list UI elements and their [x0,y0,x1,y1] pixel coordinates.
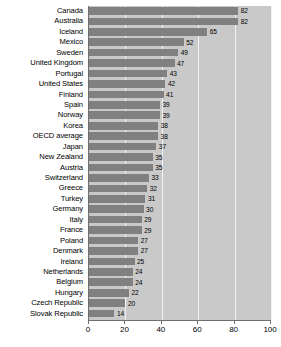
bar-value-label: 47 [177,59,184,69]
category-label: Spain [0,100,86,110]
category-label: Iceland [0,27,86,37]
bar-row: 52 [89,37,271,47]
bar[interactable] [89,38,184,46]
bar-value-label: 49 [181,48,188,58]
category-label: Ireland [0,257,86,267]
bar-row: 38 [89,121,271,131]
category-label: Turkey [0,194,86,204]
bar-row: 29 [89,225,271,235]
bar[interactable] [89,18,238,26]
category-label: Czech Republic [0,298,86,308]
bar-value-label: 52 [186,38,193,48]
bar-row: 82 [89,16,271,26]
bar[interactable] [89,289,129,297]
bar-row: 25 [89,257,271,267]
bar[interactable] [89,278,133,286]
category-label: Switzerland [0,173,86,183]
category-label: Japan [0,142,86,152]
bar[interactable] [89,299,125,307]
bar-value-label: 65 [210,27,217,37]
bar-value-label: 38 [161,121,168,131]
category-label: Mexico [0,37,86,47]
bar[interactable] [89,153,153,161]
bar[interactable] [89,143,156,151]
category-label: Slovak Republic [0,309,86,319]
bar-row: 30 [89,204,271,214]
bar-row: 38 [89,131,271,141]
category-label: Greece [0,183,86,193]
category-label: Sweden [0,48,86,58]
bar[interactable] [89,59,175,67]
bar-row: 35 [89,163,271,173]
bar[interactable] [89,132,158,140]
bar-row: 27 [89,236,271,246]
bar-value-label: 27 [141,246,148,256]
bar[interactable] [89,174,149,182]
category-label: Austria [0,163,86,173]
category-axis-labels: CanadaAustraliaIcelandMexicoSwedenUnited… [0,6,86,319]
category-label: France [0,225,86,235]
bar[interactable] [89,226,142,234]
category-label: United Kingdom [0,58,86,68]
bar[interactable] [89,101,160,109]
bar-series: 8282655249474342413939383837353533323130… [89,6,271,320]
bar-row: 35 [89,152,271,162]
bar[interactable] [89,268,133,276]
category-label: New Zealand [0,152,86,162]
bar[interactable] [89,216,142,224]
bar[interactable] [89,70,167,78]
x-tick-label: 40 [146,325,176,334]
bar-row: 32 [89,183,271,193]
bar-value-label: 82 [241,17,248,27]
bar[interactable] [89,28,207,36]
bar-row: 24 [89,277,271,287]
bar-value-label: 22 [132,288,139,298]
bar[interactable] [89,111,160,119]
bar[interactable] [89,195,145,203]
category-label: Finland [0,90,86,100]
bar-row: 20 [89,298,271,308]
x-tick [124,321,125,324]
x-tick [270,321,271,324]
bar-row: 65 [89,27,271,37]
bar-value-label: 43 [170,69,177,79]
bar[interactable] [89,247,138,255]
bar-value-label: 27 [141,236,148,246]
bar-value-label: 35 [155,153,162,163]
x-axis-line [88,320,271,321]
bar[interactable] [89,122,158,130]
bar-value-label: 39 [162,111,169,121]
bar[interactable] [89,237,138,245]
category-label: Netherlands [0,267,86,277]
category-label: Hungary [0,288,86,298]
category-label: Australia [0,16,86,26]
bar-value-label: 24 [135,267,142,277]
bar[interactable] [89,49,178,57]
bar-value-label: 24 [135,278,142,288]
bar-value-label: 32 [150,184,157,194]
bar-value-label: 33 [152,173,159,183]
bar-row: 82 [89,6,271,16]
category-label: United States [0,79,86,89]
bar-row: 29 [89,215,271,225]
bar[interactable] [89,205,144,213]
bar[interactable] [89,7,238,15]
x-tick-label: 20 [109,325,139,334]
bar-value-label: 82 [241,6,248,16]
bar-value-label: 42 [168,79,175,89]
x-tick-label: 60 [182,325,212,334]
bar-value-label: 35 [155,163,162,173]
category-label: Korea [0,121,86,131]
bar[interactable] [89,164,153,172]
bar[interactable] [89,91,164,99]
x-tick [161,321,162,324]
bar[interactable] [89,310,114,318]
category-label: OECD average [0,131,86,141]
bar[interactable] [89,80,165,88]
category-label: Italy [0,215,86,225]
bar[interactable] [89,258,135,266]
bar-value-label: 14 [117,309,124,319]
bar[interactable] [89,185,147,193]
category-label: Germany [0,204,86,214]
bar-value-label: 37 [159,142,166,152]
